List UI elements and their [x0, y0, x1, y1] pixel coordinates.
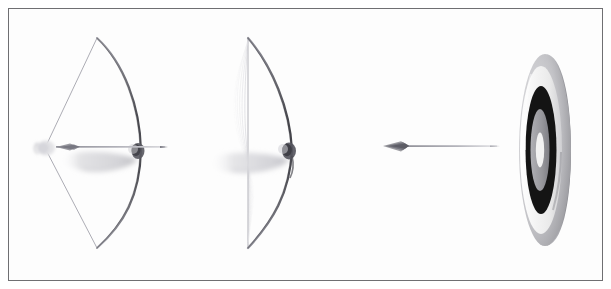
bow-limbs-released: [248, 38, 292, 248]
target-bullseye: [536, 133, 544, 168]
arrow-fletching: [383, 141, 409, 151]
bow-hand-grip-drawn: [128, 143, 145, 159]
panel-released-bow: [208, 38, 296, 248]
draw-hand: [35, 141, 55, 156]
archer-forearm-drawn: [60, 152, 138, 172]
arrow-nocked: [56, 144, 168, 151]
panel-drawn-bow: [35, 38, 168, 248]
archery-illustration: [0, 0, 611, 289]
panel-target: [519, 54, 571, 246]
bow-limbs-drawn: [97, 38, 141, 248]
bowstring-drawn: [45, 38, 97, 248]
bowstring-vibrating: [234, 38, 254, 248]
illustration-stage: Archery sequence: drawn bow, released bo…: [0, 0, 611, 289]
archer-forearm-released: [208, 153, 290, 173]
panel-arrow-in-flight: [383, 141, 500, 151]
